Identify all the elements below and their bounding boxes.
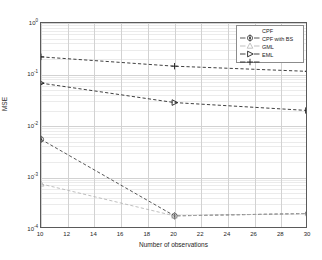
legend-marker-triangle-right-icon [239, 44, 261, 52]
x-tick-label: 14 [83, 231, 103, 237]
y-tick-label: 10-1 [27, 70, 38, 77]
x-tick-label: 18 [137, 231, 157, 237]
series-line [41, 184, 307, 216]
data-point-marker-plus [171, 63, 177, 69]
legend-item-gml[interactable]: GML [239, 44, 301, 52]
data-point-marker-plus [247, 59, 253, 65]
series-gml [41, 80, 307, 113]
legend-marker-triangle-up-icon [239, 36, 261, 44]
x-tick-label: 20 [164, 231, 184, 237]
legend-label: EML [261, 53, 273, 59]
series-cpf [41, 136, 307, 220]
legend-item-cpf-with-bs[interactable]: CPF with BS [239, 36, 301, 44]
legend[interactable]: CPFCPF with BSGMLEML [236, 25, 304, 63]
y-tick-label: 10-3 [27, 173, 38, 180]
y-tick-label: 10-2 [27, 122, 38, 129]
x-tick-label: 26 [244, 231, 264, 237]
legend-marker-circle-dot-icon [239, 28, 261, 36]
data-point-marker-plus [305, 68, 307, 74]
x-tick-label: 24 [217, 231, 237, 237]
legend-label: CPF with BS [261, 37, 293, 43]
x-tick-label: 12 [57, 231, 77, 237]
y-axis-label: MSE [1, 97, 8, 111]
series-line [41, 83, 307, 110]
x-tick-label: 22 [190, 231, 210, 237]
data-point-marker-triangle-up [41, 181, 44, 186]
x-tick-label: 30 [297, 231, 317, 237]
figure-canvas: MSE 10010-110-210-310-4 1012141618202224… [0, 0, 322, 260]
x-axis-label: Number of observations [40, 241, 307, 248]
series-line [41, 139, 307, 215]
data-point-marker-plus [41, 54, 44, 60]
legend-label: GML [261, 45, 274, 51]
legend-item-cpf[interactable]: CPF [239, 28, 301, 36]
legend-marker-plus-icon [239, 52, 261, 60]
series-cpf-with-bs [41, 181, 307, 218]
y-tick-label: 100 [29, 19, 38, 26]
legend-label: CPF [261, 29, 273, 35]
x-tick-label: 10 [30, 231, 50, 237]
data-point-marker-triangle-right [306, 108, 307, 114]
legend-item-eml[interactable]: EML [239, 52, 301, 60]
data-point-marker-circle-dot [41, 136, 44, 143]
x-tick-label: 16 [110, 231, 130, 237]
x-tick-label: 28 [270, 231, 290, 237]
